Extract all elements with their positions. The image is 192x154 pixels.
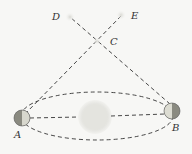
planet-a-icon bbox=[14, 110, 30, 126]
parallax-diagram: D E C A B bbox=[0, 0, 192, 154]
sightline-a-e bbox=[25, 16, 121, 114]
label-a: A bbox=[13, 129, 21, 140]
line-sun-b bbox=[111, 114, 165, 116]
planet-b-icon bbox=[164, 103, 180, 119]
star-c-icon bbox=[93, 37, 101, 45]
star-d-icon bbox=[65, 12, 75, 22]
sightline-b-d bbox=[70, 17, 170, 104]
sun-icon bbox=[78, 100, 112, 134]
label-d: D bbox=[51, 11, 60, 22]
label-b: B bbox=[171, 122, 179, 133]
label-e: E bbox=[130, 10, 139, 21]
line-a-sun bbox=[30, 117, 79, 118]
star-e-icon bbox=[116, 10, 126, 20]
label-c: C bbox=[110, 36, 118, 47]
